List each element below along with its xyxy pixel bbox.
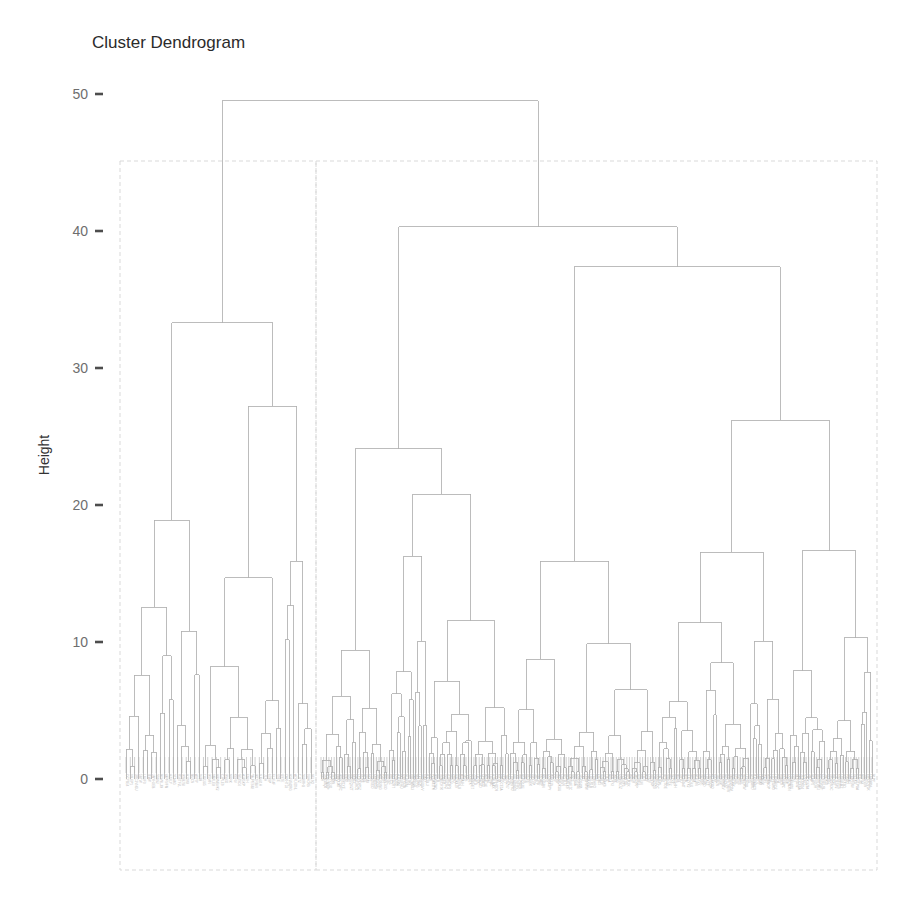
leaf-label: Y0GIRH2 [301,774,305,788]
y-tick-label-30: 30 [72,360,88,376]
leaf-label: HZXLY [168,774,172,784]
leaf-label: SGZ9OJ [237,774,241,786]
y-tick-label-50: 50 [72,86,88,102]
leaf-label: IEAW [147,774,151,782]
leaf-label: WNB7SI [181,774,185,786]
leaf-label: 5BTW [138,774,142,783]
leaf-label: 0UHCKB [306,774,310,787]
y-tick-label-20: 20 [72,497,88,513]
leaf-label: 44PRVFM [164,774,168,789]
leaf-label: W0WN [207,774,211,784]
y-axis-title: Height [36,435,52,476]
leaf-label: LNVF0 [142,774,146,784]
leaf-label: B1PY [871,774,875,782]
leaf-label: C3PLE9 [220,774,224,786]
leaf-label: R5ETF2L [177,774,181,788]
leaf-label: 3MYHJEB [151,774,155,788]
leaf-label: HB9MBVK2 [215,774,219,791]
leaf-label: USTE [280,774,284,782]
leaf-label: 9V88 [198,774,202,782]
leaf-label: SJBU1H [258,774,262,786]
leaf-label: FL1E4F [271,774,275,785]
leaf-label: 09LEP1 [129,774,133,785]
leaf-label: ACRLVDNL [293,774,297,791]
leaf-label: OKKHT32 [284,774,288,788]
dendrogram-links [126,101,872,779]
leaf-label: H1DK8 [185,774,189,784]
leaf-label: YTM4G [172,774,176,785]
leaf-label: V9EE [276,774,280,782]
leaf-label: SFL9Q [310,774,314,784]
dendrogram-canvas: Cluster Dendrogram Height 01020304050 OC… [0,0,911,899]
y-tick-label-10: 10 [72,634,88,650]
leaf-label: WT1RBVI [254,774,258,788]
leaf-label: BI2CN [190,774,194,783]
y-tick-label-40: 40 [72,223,88,239]
leaf-label: H5F2BQRG [288,774,292,791]
left-panel [120,161,316,870]
leaf-label: Y9NS2 [155,774,159,784]
leaf-label: BLW9LJM [159,774,163,788]
leaf-label: 9MKLE8 [211,774,215,786]
y-axis: 01020304050 [72,86,103,787]
page-title: Cluster Dendrogram [92,33,245,52]
leaf-label: NRRK [228,774,232,784]
y-tick-label-0: 0 [80,771,88,787]
dendrogram-figure: Cluster Dendrogram Height 01020304050 OC… [0,0,911,899]
leaf-label: A9YIY [194,774,198,783]
leaf-label: TJ3TZ [297,774,301,783]
leaf-label: A3R5KP [241,774,245,786]
leaf-label: OCY6E4 [125,774,129,786]
leaf-label: FNVH [245,774,249,782]
dendrogram-link-path [126,101,872,779]
leaf-label: KGNV [233,774,237,784]
leaf-label: J13H [263,774,267,781]
leaf-label: 6789P [267,774,271,783]
leaf-label: TO03U5 [202,774,206,786]
leaf-label: XRC3VN6U [134,774,138,791]
leaf-label: W4XO [224,774,228,784]
leaf-label: YAJPES82 [250,774,254,789]
